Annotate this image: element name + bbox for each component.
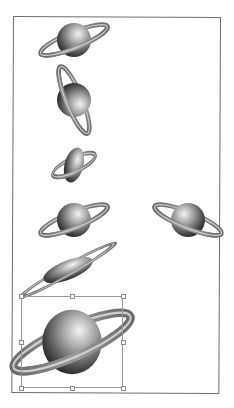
planet-vertical-ring[interactable] [53,64,95,137]
planet-original[interactable] [38,19,111,61]
selection-bounding-box[interactable] [21,296,123,388]
resize-handle-top-center[interactable] [70,294,75,299]
resize-handle-middle-left[interactable] [19,340,24,345]
resize-handle-top-left[interactable] [19,294,24,299]
planet-sheared[interactable] [11,238,124,302]
planet-squashed[interactable] [49,139,99,192]
resize-handle-middle-right[interactable] [121,340,126,345]
planet-copy[interactable] [38,199,111,241]
resize-handle-bottom-left[interactable] [19,386,24,391]
resize-handle-top-right[interactable] [121,294,126,299]
resize-handle-bottom-center[interactable] [70,386,75,391]
planet-reflected[interactable] [152,199,225,241]
resize-handle-bottom-right[interactable] [121,386,126,391]
